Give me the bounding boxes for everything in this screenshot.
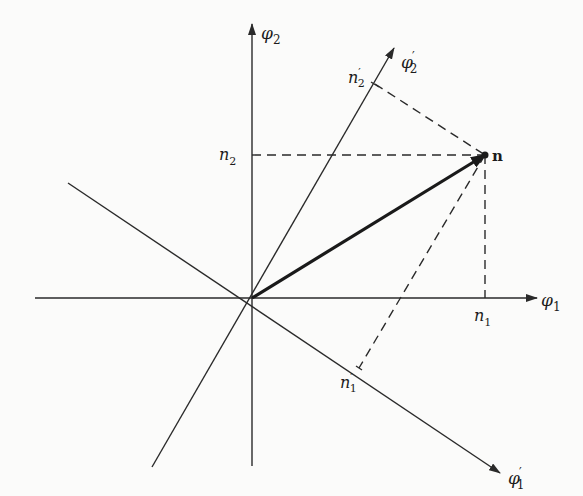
rotated-axes-projection-diagram: φ2 φ′2 n′2 n2 n φ1 n1 n′1 φ′1 <box>0 0 583 496</box>
tick-n1-prime <box>356 366 362 370</box>
phi2-prime-axis <box>152 48 394 467</box>
label-phi1: φ1 <box>541 290 561 314</box>
label-phi1-prime: φ′1 <box>508 466 524 492</box>
label-n2: n2 <box>219 145 236 168</box>
label-vector-n: n <box>492 147 503 165</box>
projection-line-n1-prime <box>359 155 485 368</box>
vector-n-tip-dot <box>482 152 489 159</box>
label-phi2-prime: φ′2 <box>401 50 417 76</box>
label-n2-prime: n′2 <box>348 66 365 90</box>
label-n1: n1 <box>474 306 491 329</box>
label-phi2: φ2 <box>261 23 281 47</box>
vector-n-arrow <box>252 155 485 298</box>
projection-line-n2-prime <box>375 84 485 155</box>
phi1-prime-axis <box>68 183 500 473</box>
